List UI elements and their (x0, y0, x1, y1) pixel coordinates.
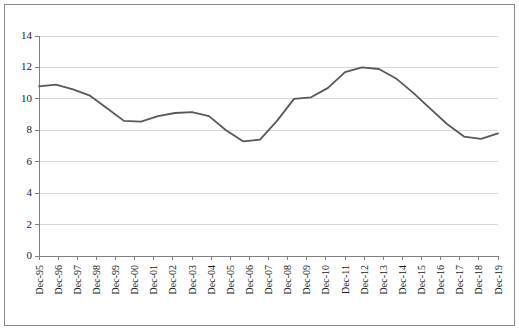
x-tick-label: Dec-17 (454, 265, 465, 294)
x-tick-label: Dec-97 (72, 265, 83, 294)
x-tick-label: Dec-01 (148, 265, 159, 294)
x-tick-label: Dec-15 (416, 265, 427, 294)
x-tick-label: Dec-00 (129, 265, 140, 294)
x-tick-label: Dec-10 (320, 265, 331, 294)
x-tick-label: Dec-08 (282, 265, 293, 294)
x-tick-label: Dec-07 (263, 265, 274, 294)
x-tick-label: Dec-03 (187, 265, 198, 294)
y-tick-label: 2 (27, 218, 33, 230)
y-tick-label: 14 (21, 29, 33, 41)
y-tick-label: 8 (27, 123, 33, 135)
x-tick-label: Dec-06 (244, 265, 255, 294)
x-tick-label: Dec-95 (34, 265, 45, 294)
x-tick-label: Dec-05 (225, 265, 236, 294)
x-tick-label: Dec-18 (473, 265, 484, 294)
x-tick-label: Dec-02 (167, 265, 178, 294)
y-tick-label: 4 (27, 186, 33, 198)
x-tick-label: Dec-98 (91, 265, 102, 294)
y-tick-label: 10 (21, 92, 33, 104)
y-tick-label: 0 (27, 249, 33, 261)
x-tick-label: Dec-14 (397, 265, 408, 294)
x-tick-label: Dec-16 (435, 265, 446, 294)
y-tick-label: 12 (21, 60, 32, 72)
x-tick-label: Dec-96 (53, 265, 64, 294)
x-tick-label: Dec-12 (359, 265, 370, 294)
chart-container: 02468101214Dec-95Dec-96Dec-97Dec-98Dec-9… (4, 4, 515, 326)
y-tick-label: 6 (27, 155, 33, 167)
x-tick-label: Dec-09 (301, 265, 312, 294)
x-tick-label: Dec-99 (110, 265, 121, 294)
x-tick-label: Dec-19 (493, 265, 504, 294)
line-chart-plot: 02468101214Dec-95Dec-96Dec-97Dec-98Dec-9… (5, 5, 514, 325)
x-tick-label: Dec-04 (206, 265, 217, 294)
x-tick-label: Dec-11 (340, 265, 351, 294)
x-tick-label: Dec-13 (378, 265, 389, 294)
